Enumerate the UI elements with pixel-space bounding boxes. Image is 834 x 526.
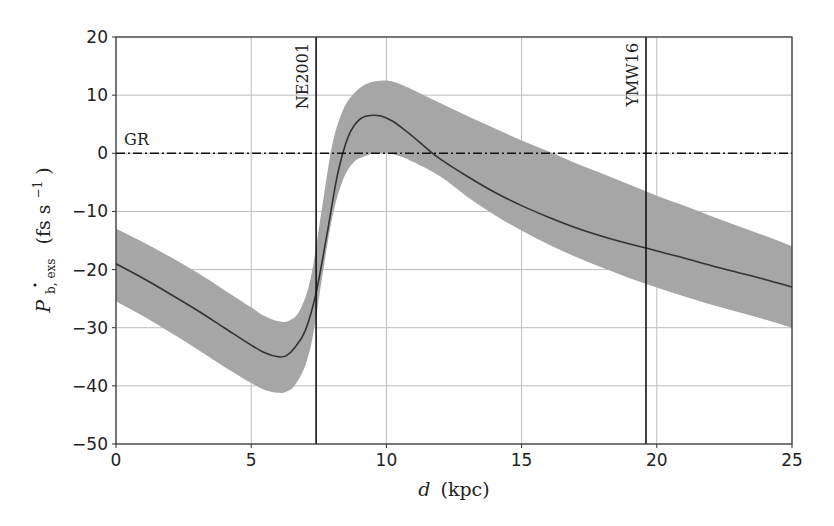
uncertainty-band-area (116, 80, 792, 392)
x-tick-label: 10 (376, 450, 398, 470)
y-tick-label: −20 (72, 260, 108, 280)
y-axis-dot-accent (33, 283, 36, 286)
x-axis-ticks: 0510152025 (111, 444, 803, 470)
y-axis-subscript: b, exs (44, 259, 58, 294)
annotation-ymw16: YMW16 (623, 43, 642, 108)
y-tick-label: −50 (72, 434, 108, 454)
chart: 0510152025 20100−10−20−30−40−50 GRNE2001… (0, 0, 834, 526)
x-axis-title: d (kpc) (418, 478, 489, 500)
x-tick-label: 20 (646, 450, 668, 470)
y-tick-label: 0 (97, 143, 108, 163)
y-tick-label: −30 (72, 318, 108, 338)
x-tick-label: 25 (781, 450, 803, 470)
annotation-ne2001: NE2001 (293, 43, 312, 109)
svg-text:P b, exs (fs s: P b, exs (fs s −1 ) (24, 167, 59, 313)
x-tick-label: 15 (511, 450, 533, 470)
y-tick-label: −40 (72, 376, 108, 396)
y-axis-symbol: P (32, 299, 54, 314)
y-tick-label: 10 (86, 85, 108, 105)
annotation-gr: GR (124, 130, 150, 149)
y-tick-label: −10 (72, 201, 108, 221)
y-axis-ticks: 20100−10−20−30−40−50 (72, 27, 116, 454)
y-axis-exponent: −1 (31, 181, 45, 199)
y-axis-title: P b, exs (fs s −1 ) (24, 167, 59, 313)
x-tick-label: 5 (246, 450, 257, 470)
x-tick-label: 0 (111, 450, 122, 470)
y-tick-label: 20 (86, 27, 108, 47)
uncertainty-band (116, 80, 792, 392)
